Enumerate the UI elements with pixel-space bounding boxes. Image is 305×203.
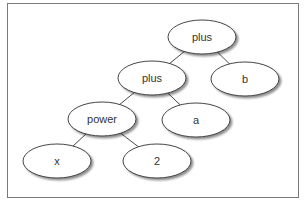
nodes: plusplusbpowerax2 <box>23 20 279 178</box>
edges <box>57 37 245 161</box>
node-label: b <box>242 73 248 85</box>
tree-node-b: b <box>211 62 279 96</box>
tree-node-x: x <box>23 144 91 178</box>
node-label: x <box>54 155 60 167</box>
tree-node-power: power <box>68 102 136 136</box>
node-label: plus <box>142 72 163 84</box>
tree-node-2: 2 <box>123 144 191 178</box>
node-label: a <box>193 114 200 126</box>
node-label: 2 <box>154 155 160 167</box>
node-label: plus <box>192 31 213 43</box>
tree-node-plus: plus <box>118 61 186 95</box>
tree-node-plus: plus <box>168 20 236 54</box>
node-label: power <box>87 113 117 125</box>
tree-node-a: a <box>162 103 230 137</box>
expression-tree: plusplusbpowerax2 <box>0 0 305 203</box>
